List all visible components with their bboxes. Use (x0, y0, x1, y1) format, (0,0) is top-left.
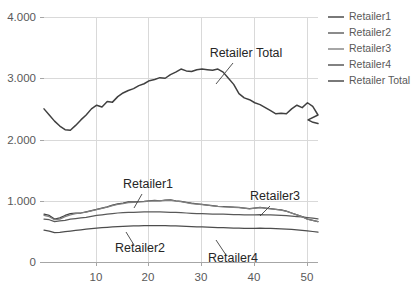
y-tick-label-0: 0 (30, 256, 36, 268)
annotation-retailer1: Retailer1 (123, 177, 173, 191)
data-series-group (44, 69, 318, 233)
annotation-labels: Retailer Total Retailer1 Retailer3 Retai… (115, 46, 300, 265)
y-tick-label-2000: 2.000 (7, 134, 36, 146)
annotation-retailer-total: Retailer Total (210, 46, 283, 60)
y-tick-label-1000: 1.000 (7, 195, 36, 207)
y-tick-label-3000: 3.000 (7, 72, 36, 84)
x-tick-label-40: 40 (248, 271, 261, 283)
legend-label-retailer3: Retailer3 (349, 42, 391, 54)
legend-label-retailer4: Retailer4 (349, 58, 391, 70)
y-tick-label-4000: 4.000 (7, 11, 36, 23)
annotation-retailer2: Retailer2 (115, 241, 165, 255)
legend-item-retailer1[interactable]: Retailer1 (328, 10, 391, 22)
series-line-retailer1 (44, 200, 318, 222)
legend: Retailer1 Retailer2 Retailer3 Retailer4 … (328, 10, 410, 86)
legend-label-retailer2: Retailer2 (349, 26, 391, 38)
legend-item-retailer-total[interactable]: Retailer Total (328, 74, 410, 86)
x-tick-label-30: 30 (195, 271, 208, 283)
annotation-retailer4: Retailer4 (208, 251, 258, 265)
annotation-retailer3: Retailer3 (250, 189, 300, 203)
series-line-retailer2 (44, 212, 318, 222)
series-line-retailer3 (44, 200, 318, 222)
legend-label-retailer-total: Retailer Total (349, 74, 410, 86)
x-tick-marks (96, 262, 307, 266)
y-tick-marks (40, 17, 44, 262)
legend-item-retailer2[interactable]: Retailer2 (328, 26, 391, 38)
y-axis-labels: 4.000 3.000 2.000 1.000 0 (7, 11, 36, 268)
x-tick-label-50: 50 (301, 271, 314, 283)
legend-item-retailer3[interactable]: Retailer3 (328, 42, 391, 54)
series-line-retailer4 (44, 226, 318, 233)
legend-label-retailer1: Retailer1 (349, 10, 391, 22)
x-tick-label-10: 10 (90, 271, 103, 283)
chart-canvas: 4.000 3.000 2.000 1.000 0 10 20 30 40 50… (0, 0, 412, 292)
x-tick-label-20: 20 (142, 271, 155, 283)
x-axis-labels: 10 20 30 40 50 (90, 271, 314, 283)
line-chart: 4.000 3.000 2.000 1.000 0 10 20 30 40 50… (0, 0, 412, 292)
legend-item-retailer4[interactable]: Retailer4 (328, 58, 391, 70)
